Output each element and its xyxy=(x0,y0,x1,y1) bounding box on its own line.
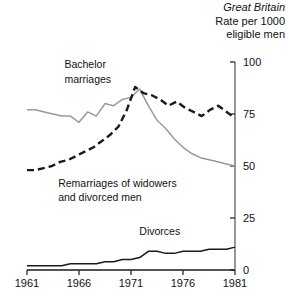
series-line xyxy=(27,87,235,170)
x-axis-tick-label: 1966 xyxy=(67,277,91,289)
y-axis-tick-label: 0 xyxy=(243,264,249,276)
x-axis-tick-label: 1981 xyxy=(223,277,247,289)
series-annotation-label: Bachelor xyxy=(64,58,106,70)
y-axis-tick-label: 25 xyxy=(243,212,255,224)
y-axis-tick-label: 100 xyxy=(243,56,261,68)
x-axis-tick-label: 1971 xyxy=(119,277,143,289)
x-axis-tick-label: 1961 xyxy=(15,277,39,289)
series-annotation-label: and divorced men xyxy=(58,191,142,203)
y-axis-tick-label: 50 xyxy=(243,160,255,172)
x-axis-tick-label: 1976 xyxy=(171,277,195,289)
chart-container: Great Britain Rate per 1000 eligible men… xyxy=(0,0,289,304)
series-annotation-label: marriages xyxy=(64,73,111,85)
series-line xyxy=(27,247,235,266)
line-chart-plot: 196119661971197619810255075100 Bachelorm… xyxy=(0,0,289,304)
series-annotation-label: Remarriages of widowers xyxy=(58,177,176,189)
series-annotation-label: Divorces xyxy=(139,225,180,237)
chart-annotations-group: BachelormarriagesRemarriages of widowers… xyxy=(58,58,180,236)
y-axis-tick-label: 75 xyxy=(243,108,255,120)
